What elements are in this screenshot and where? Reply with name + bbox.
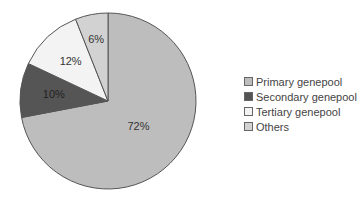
pie-slice-label: 12%: [60, 55, 82, 67]
legend-label: Others: [256, 121, 289, 133]
legend-item-secondary: Secondary genepool: [244, 89, 357, 104]
pie-slice-label: 10%: [43, 88, 65, 100]
legend-swatch: [244, 107, 253, 116]
legend-swatch: [244, 92, 253, 101]
legend-label: Secondary genepool: [256, 91, 357, 103]
pie-chart: 72%10%12%6%: [0, 0, 230, 199]
legend-item-tertiary: Tertiary genepool: [244, 104, 357, 119]
legend-label: Tertiary genepool: [256, 106, 340, 118]
legend: Primary genepool Secondary genepool Tert…: [244, 74, 357, 134]
legend-swatch: [244, 122, 253, 131]
pie-slice-label: 72%: [127, 120, 149, 132]
legend-label: Primary genepool: [256, 76, 342, 88]
legend-item-primary: Primary genepool: [244, 74, 357, 89]
pie-slice-label: 6%: [88, 33, 104, 45]
legend-item-others: Others: [244, 119, 357, 134]
legend-swatch: [244, 77, 253, 86]
